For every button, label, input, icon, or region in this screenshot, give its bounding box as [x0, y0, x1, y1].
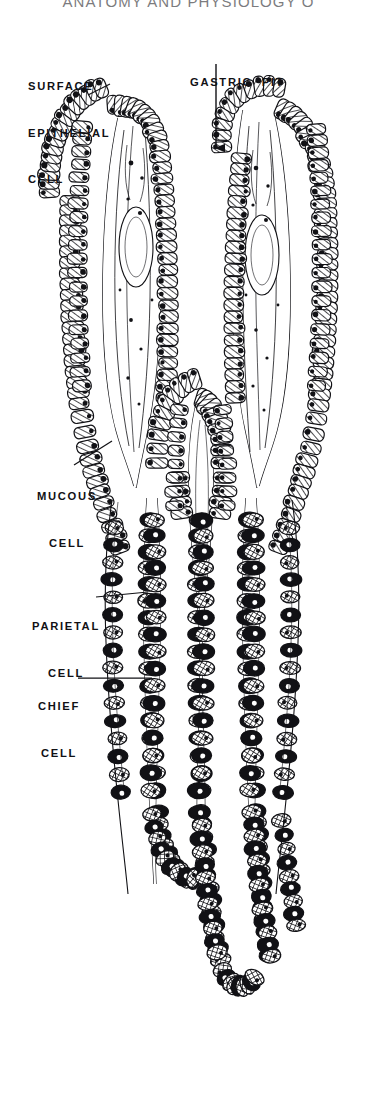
cell-nucleus	[237, 302, 242, 307]
chief-cell	[145, 578, 166, 592]
chief-cell	[191, 731, 213, 745]
epithelial-cell	[157, 334, 179, 345]
parietal-cell	[241, 528, 264, 543]
label-line: GASTRIC PIT	[190, 75, 284, 91]
chief-cell	[109, 767, 130, 782]
label-chief-cell: CHIEF CELL	[20, 668, 98, 792]
chief-cell	[108, 732, 128, 746]
parietal-cell	[193, 644, 215, 660]
epithelial-cell	[67, 253, 87, 264]
chief-cell	[193, 529, 213, 544]
epithelial-cell	[310, 338, 329, 349]
epithelial-cell	[226, 230, 246, 242]
cell-nucleus	[253, 631, 258, 636]
cell-layer-deep-glands	[101, 512, 302, 800]
cell-nucleus	[81, 257, 86, 262]
parietal-cell	[143, 695, 165, 711]
epithelial-cell	[311, 225, 331, 236]
label-gastric-pit: GASTRIC PIT	[190, 44, 284, 122]
epithelial-cell	[159, 311, 178, 323]
chief-cell	[193, 661, 215, 676]
epithelial-cell	[70, 352, 90, 363]
epithelial-cell	[166, 472, 183, 483]
epithelial-cell	[219, 486, 237, 497]
epithelial-cell	[307, 380, 326, 392]
epithelial-cell	[168, 445, 185, 456]
parietal-cell	[143, 528, 165, 543]
parietal-cell	[243, 626, 266, 642]
epithelial-cell	[225, 241, 246, 254]
parietal-cell	[194, 610, 214, 626]
cell-nucleus	[205, 599, 209, 603]
epithelial-cell	[312, 296, 331, 307]
epithelial-cell	[154, 184, 174, 196]
epithelial-cell	[159, 300, 178, 310]
epithelial-cell	[225, 380, 245, 392]
chief-cell	[193, 593, 214, 607]
parietal-cell	[107, 749, 128, 765]
parietal-cell	[242, 695, 263, 711]
chief-cell	[243, 679, 264, 693]
epithelial-cell	[310, 172, 328, 184]
chief-cell	[195, 628, 214, 642]
epithelial-cell	[218, 458, 236, 469]
parietal-cell	[145, 560, 166, 576]
parietal-cell	[239, 765, 260, 781]
epithelial-cell	[225, 253, 247, 264]
epithelial-cell	[224, 264, 245, 276]
chief-cell	[144, 678, 166, 692]
label-line: EPITHELIAL	[28, 126, 110, 142]
epithelial-cell	[312, 267, 330, 277]
epithelial-cell	[224, 287, 244, 299]
parietal-cell	[242, 594, 265, 609]
chief-cell	[280, 555, 299, 569]
epithelial-cell	[169, 417, 187, 428]
epithelial-cell	[151, 173, 173, 185]
epithelial-cell	[224, 335, 243, 346]
cell-nucleus	[252, 600, 257, 605]
chief-cell	[242, 513, 263, 528]
parietal-cell	[243, 660, 264, 676]
cell-nucleus	[285, 594, 289, 598]
cell-nucleus	[161, 315, 166, 320]
chief-cell	[271, 813, 292, 829]
chief-cell	[239, 783, 260, 798]
parietal-cell	[242, 561, 265, 575]
parietal-cell	[145, 661, 166, 676]
epithelial-cell	[70, 366, 91, 377]
epithelial-cell	[157, 323, 178, 333]
chief-cell	[144, 713, 165, 728]
epithelial-cell	[159, 358, 178, 369]
chief-cell	[244, 578, 265, 592]
label-line: CELL	[24, 536, 110, 552]
epithelial-cell	[68, 240, 87, 251]
parietal-cell	[280, 881, 301, 897]
epithelial-cell	[224, 299, 244, 311]
chief-cell	[243, 714, 263, 728]
epithelial-cell	[308, 147, 329, 160]
epithelial-cell	[156, 206, 175, 218]
cell-nucleus	[314, 257, 319, 262]
parietal-cell	[241, 730, 262, 746]
parietal-cell	[143, 627, 166, 642]
epithelial-cell	[156, 241, 177, 253]
label-line: PARIETAL	[20, 619, 112, 635]
chief-cell	[141, 783, 162, 799]
parietal-cell	[272, 785, 294, 800]
epithelial-cell	[309, 159, 329, 171]
epithelial-cell	[156, 229, 176, 242]
chief-cell	[244, 544, 265, 559]
epithelial-cell	[229, 174, 249, 187]
cell-nucleus	[154, 631, 159, 636]
cell-nucleus	[158, 616, 162, 620]
epithelial-cell	[302, 426, 325, 442]
cell-nucleus	[287, 612, 292, 617]
parietal-cell	[274, 827, 294, 843]
label-line: SURFACE	[28, 79, 110, 95]
parietal-cell	[187, 782, 210, 799]
cell-nucleus	[80, 269, 86, 275]
epithelial-cell	[165, 486, 183, 497]
chief-cell	[143, 748, 163, 763]
epithelial-cell	[70, 409, 94, 425]
epithelial-cell	[224, 358, 244, 369]
